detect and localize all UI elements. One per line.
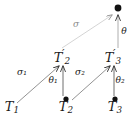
arrow-label-sigma2: σ₂ [75,68,85,77]
node-dot-top [115,5,122,12]
node-label-T3-prime: T′3 [105,48,121,66]
node-sub-T2: 2 [68,106,74,116]
arrow-sigma [62,15,112,48]
arrow-label-sigma1: σ₁ [17,68,27,77]
node-sub-T3-prime: 3 [116,56,122,66]
arrow-label-sigma: σ [73,20,79,29]
node-label-T1: T1 [5,100,19,115]
node-base-T1: T [5,99,14,114]
node-sub-T2-prime: 2 [65,56,71,66]
node-sub-T3: 3 [117,106,123,116]
commutative-diagram: T1 T2 T3 T′2 T′3 σ₁ θ₁ σ₂ θ₂ σ θ [0,0,136,121]
arrow-label-theta: θ [121,27,126,36]
node-label-T3: T3 [108,100,122,115]
node-sub-T1: 1 [14,106,20,116]
node-label-T2-prime: T′2 [54,48,70,66]
arrow-label-theta2: θ₂ [115,76,124,85]
arrow-label-theta1: θ₁ [48,76,57,85]
node-label-T2: T2 [59,100,73,115]
node-base-T3: T [108,99,117,114]
node-base-T2: T [59,99,68,114]
